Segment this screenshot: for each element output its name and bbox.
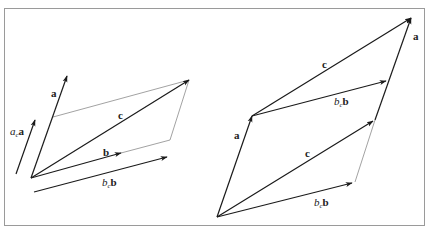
vector-c-upper	[252, 18, 411, 116]
label-bc-b-bottom: bcb	[314, 196, 329, 210]
label-a: a	[51, 87, 57, 99]
left-panel: a aca c b bcb	[10, 76, 189, 192]
vector-a	[31, 76, 67, 178]
label-bc-b-top: bcb	[334, 95, 349, 109]
label-b: b	[103, 146, 109, 158]
vector-bc-b-upper	[252, 81, 386, 116]
right-panel: a a c c bcb bcb	[217, 18, 419, 217]
label-a-left: a	[234, 129, 240, 141]
vector-bc-b-lower	[217, 183, 352, 217]
vector-a-right	[375, 18, 411, 120]
vector-c-lower	[217, 121, 373, 217]
vector-decomposition-diagram: a aca c b bcb a a c c bcb bcb	[0, 0, 432, 233]
label-c: c	[118, 109, 123, 121]
label-c-top: c	[322, 58, 327, 70]
label-a-right: a	[413, 30, 419, 42]
label-c-bottom: c	[305, 147, 310, 159]
parallelogram-side	[355, 120, 375, 182]
label-bc-b: bcb	[102, 176, 117, 190]
label-ac-a: aca	[10, 125, 25, 139]
vector-bc-b	[34, 157, 167, 192]
